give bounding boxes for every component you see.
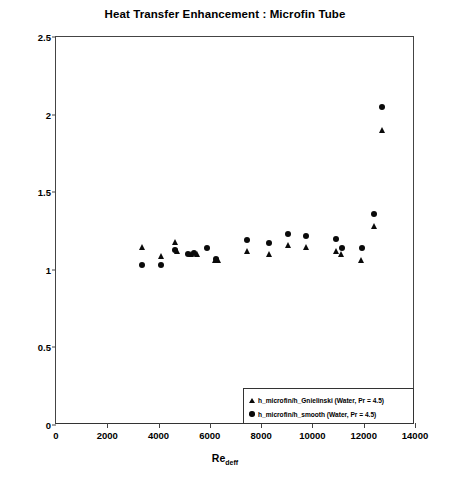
- x-axis-label: Redeff: [0, 452, 450, 466]
- y-tick-mark: [52, 37, 56, 38]
- data-point-triangle: [172, 239, 178, 245]
- data-point-circle: [371, 211, 377, 217]
- x-tick-label: 14000: [402, 430, 428, 441]
- x-tick-label: 10000: [299, 430, 325, 441]
- data-point-triangle: [358, 257, 364, 263]
- data-point-circle: [213, 256, 219, 262]
- data-point-circle: [359, 245, 365, 251]
- legend-item: h_microfin/h_Gnielinski (Water, Pr = 4.5…: [249, 393, 409, 407]
- circle-marker-icon: [249, 411, 258, 417]
- marker-glyph: [249, 411, 255, 417]
- data-point-triangle: [285, 242, 291, 248]
- data-point-circle: [244, 237, 250, 243]
- data-point-circle: [303, 233, 309, 239]
- x-tick-mark: [210, 423, 211, 428]
- legend-label: h_microfin/h_Gnielinski (Water, Pr = 4.5…: [258, 397, 384, 404]
- data-point-triangle: [244, 248, 250, 254]
- data-point-circle: [158, 262, 164, 268]
- x-tick-mark: [107, 423, 108, 428]
- chart-title: Heat Transfer Enhancement : Microfin Tub…: [0, 8, 450, 20]
- y-tick-mark: [52, 347, 56, 348]
- x-tick-mark: [415, 423, 416, 428]
- data-point-circle: [204, 245, 210, 251]
- figure-container: Heat Transfer Enhancement : Microfin Tub…: [0, 0, 450, 481]
- data-point-circle: [339, 245, 345, 251]
- plot-area: 00.511.522.5 020004000600080001000012000…: [55, 36, 414, 424]
- x-axis-label-main: Re: [212, 452, 225, 464]
- x-tick-label: 12000: [350, 430, 376, 441]
- x-axis-label-sub: deff: [225, 459, 238, 466]
- data-point-circle: [185, 251, 191, 257]
- x-tick-label: 0: [53, 430, 58, 441]
- data-point-triangle: [338, 251, 344, 257]
- data-point-triangle: [266, 251, 272, 257]
- y-tick-mark: [52, 114, 56, 115]
- legend-item: h_microfin/h_smooth (Water, Pr = 4.5): [249, 407, 409, 421]
- y-tick-mark: [52, 269, 56, 270]
- data-point-triangle: [379, 127, 385, 133]
- data-point-circle: [379, 104, 385, 110]
- data-point-circle: [285, 231, 291, 237]
- data-point-triangle: [139, 244, 145, 250]
- data-point-triangle: [303, 244, 309, 250]
- legend-label: h_microfin/h_smooth (Water, Pr = 4.5): [258, 411, 376, 418]
- y-tick-mark: [52, 425, 56, 426]
- x-tick-mark: [159, 423, 160, 428]
- x-tick-label: 6000: [199, 430, 220, 441]
- data-point-triangle: [371, 223, 377, 229]
- legend: h_microfin/h_Gnielinski (Water, Pr = 4.5…: [243, 388, 414, 424]
- data-point-circle: [139, 262, 145, 268]
- data-point-circle: [172, 247, 178, 253]
- triangle-marker-icon: [249, 398, 258, 403]
- data-point-circle: [266, 240, 272, 246]
- x-tick-label: 4000: [148, 430, 169, 441]
- data-point-circle: [191, 250, 197, 256]
- data-point-circle: [333, 236, 339, 242]
- x-tick-label: 2000: [97, 430, 118, 441]
- marker-glyph: [249, 398, 255, 403]
- data-point-triangle: [158, 253, 164, 259]
- x-tick-label: 8000: [251, 430, 272, 441]
- y-tick-mark: [52, 192, 56, 193]
